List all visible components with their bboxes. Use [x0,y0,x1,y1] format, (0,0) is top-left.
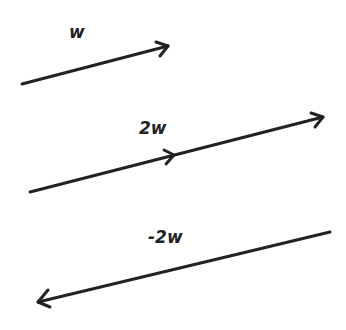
vector-neg-2w [38,232,330,302]
vector-2w [30,117,323,192]
vector-w [22,46,168,84]
label-2w: 2w [139,118,167,138]
vector-diagram [0,0,346,330]
label-neg-2w: -2w [148,227,183,247]
label-w: w [69,22,85,42]
